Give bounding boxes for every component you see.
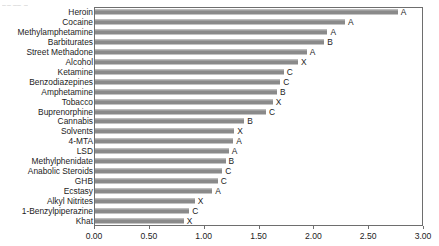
bar-rating-label: A — [310, 47, 316, 56]
category-label: Benzodiazepines — [29, 77, 93, 86]
x-axis-tick-label: 1.00 — [195, 231, 212, 241]
category-label: Tobacco — [62, 97, 93, 106]
bar-rating-label: A — [236, 137, 242, 146]
bar-rows: HeroinACocaineAMethylamphetamineABarbitu… — [0, 7, 439, 226]
x-axis-tick — [423, 226, 424, 229]
x-axis-tick — [149, 226, 150, 229]
category-label: Street Methadone — [26, 47, 93, 56]
x-axis-tick-label: 1.50 — [250, 231, 267, 241]
category-label: Cannabis — [58, 117, 93, 126]
bar — [95, 209, 189, 214]
bar — [95, 139, 233, 144]
category-label: Khat — [76, 217, 93, 226]
bar — [95, 109, 266, 114]
bar — [95, 89, 277, 94]
bar — [95, 9, 398, 14]
bar-chart: ▁▁ ▁▁ ▁ HeroinACocaineAMethylamphetamine… — [0, 0, 439, 246]
category-label: Anabolic Steroids — [28, 167, 93, 176]
bar — [95, 79, 280, 84]
bar-rating-label: B — [280, 87, 286, 96]
bar — [95, 189, 212, 194]
category-label: Methylamphetamine — [18, 27, 93, 36]
bar-rating-label: C — [225, 167, 231, 176]
x-axis-tick-label: 2.00 — [305, 231, 322, 241]
category-label: Alcohol — [66, 57, 93, 66]
category-label: Ketamine — [58, 67, 93, 76]
x-axis-tick-label: 3.00 — [415, 231, 432, 241]
bar-rating-label: C — [269, 107, 275, 116]
bar-rating-label: C — [221, 177, 227, 186]
bar-rating-label: X — [198, 197, 204, 206]
x-axis-tick-label: 0.00 — [86, 231, 103, 241]
bar-rating-label: A — [348, 17, 354, 26]
x-axis-tick — [259, 226, 260, 229]
bar-rating-label: C — [192, 207, 198, 216]
x-axis: 0.000.501.001.502.002.503.00 — [94, 226, 424, 246]
bar-rating-label: A — [232, 147, 238, 156]
category-label: Cocaine — [62, 17, 93, 26]
bar — [95, 219, 184, 224]
bar-rating-label: B — [247, 117, 253, 126]
category-label: Methylphenidate — [32, 157, 93, 166]
category-label: LSD — [77, 147, 93, 156]
bar-rating-label: C — [287, 67, 293, 76]
bar-rating-label: X — [276, 97, 282, 106]
bar — [95, 69, 284, 74]
category-label: Alkyl Nitrites — [47, 197, 93, 206]
bar — [95, 119, 244, 124]
category-label: 1-Benzylpiperazine — [22, 207, 93, 216]
bar — [95, 39, 324, 44]
bar-row: 4-MTAA — [0, 136, 439, 146]
bar — [95, 169, 222, 174]
category-label: Buprenorphine — [38, 107, 93, 116]
bar-rating-label: X — [187, 217, 193, 226]
bar — [95, 19, 345, 24]
category-label: GHB — [75, 177, 93, 186]
category-label: Amphetamine — [41, 87, 93, 96]
bar-rating-label: B — [229, 157, 235, 166]
category-label: Solvents — [61, 127, 93, 136]
bar-row: 1-BenzylpiperazineC — [0, 206, 439, 216]
bar-row: KhatX — [0, 216, 439, 226]
bar — [95, 99, 273, 104]
bar-rating-label: C — [283, 77, 289, 86]
x-axis-tick — [94, 226, 95, 229]
bar — [95, 159, 226, 164]
x-axis-tick-label: 0.50 — [140, 231, 157, 241]
bar — [95, 199, 195, 204]
bar-rating-label: A — [401, 7, 407, 16]
bar — [95, 29, 327, 34]
bar-rating-label: A — [330, 27, 336, 36]
category-label: Ecstasy — [64, 187, 93, 196]
category-label: 4-MTA — [68, 137, 93, 146]
bar — [95, 179, 218, 184]
bar — [95, 49, 307, 54]
bar-rating-label: B — [327, 37, 333, 46]
bar — [95, 129, 234, 134]
category-label: Heroin — [68, 7, 93, 16]
scan-artifact: ▁▁ ▁▁ ▁ — [2, 1, 28, 6]
bar-row: SolventsX — [0, 126, 439, 136]
x-axis-tick — [368, 226, 369, 229]
bar-rating-label: X — [237, 127, 243, 136]
x-axis-tick — [313, 226, 314, 229]
bar-row: Anabolic SteroidsC — [0, 166, 439, 176]
category-label: Barbiturates — [48, 37, 93, 46]
bar — [95, 59, 298, 64]
bar-rating-label: X — [301, 57, 307, 66]
bar-rating-label: A — [215, 187, 221, 196]
x-axis-tick — [204, 226, 205, 229]
x-axis-tick-label: 2.50 — [360, 231, 377, 241]
bar — [95, 149, 229, 154]
